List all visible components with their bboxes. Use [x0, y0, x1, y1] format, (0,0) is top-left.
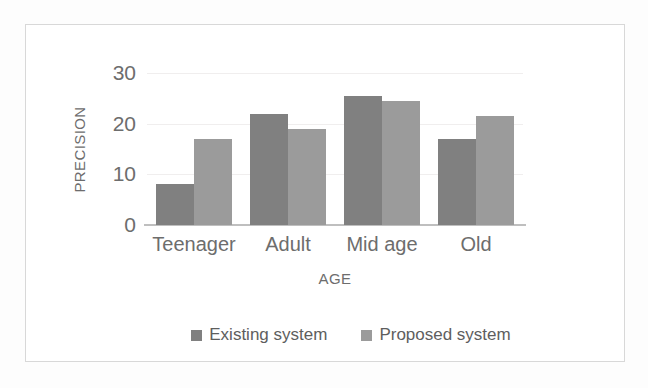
scanned-page: PRECISION 0102030 TeenagerAdultMid ageOl… — [0, 0, 648, 388]
bar-existing-system — [156, 184, 194, 225]
y-axis-tick-label: 0 — [124, 213, 136, 237]
x-axis-label: Teenager — [147, 233, 241, 256]
bar-existing-system — [438, 139, 476, 225]
legend-swatch-icon — [361, 330, 372, 341]
x-axis-category-labels: TeenagerAdultMid ageOld — [147, 233, 523, 263]
legend-label: Existing system — [209, 325, 327, 345]
legend-item[interactable]: Proposed system — [361, 325, 510, 345]
y-axis-tick-label: 20 — [113, 112, 136, 136]
y-axis-tick-label: 30 — [113, 61, 136, 85]
bar-proposed-system — [382, 101, 420, 225]
x-axis-label: Old — [429, 233, 523, 256]
y-axis-tick-label: 10 — [113, 162, 136, 186]
legend-label: Proposed system — [379, 325, 510, 345]
chart-legend: Existing systemProposed system — [51, 325, 648, 345]
bar-proposed-system — [194, 139, 232, 225]
chart-frame: PRECISION 0102030 TeenagerAdultMid ageOl… — [25, 24, 625, 362]
bar-proposed-system — [288, 129, 326, 225]
bar-group — [147, 73, 241, 225]
legend-item[interactable]: Existing system — [191, 325, 327, 345]
x-axis-label: Adult — [241, 233, 335, 256]
y-axis-title-label: PRECISION — [71, 106, 88, 192]
x-axis-title: AGE — [147, 270, 523, 287]
y-axis-title: PRECISION — [68, 73, 90, 225]
bar-proposed-system — [476, 116, 514, 225]
bar-existing-system — [344, 96, 382, 225]
legend-swatch-icon — [191, 330, 202, 341]
bar-group — [429, 73, 523, 225]
bar-group — [335, 73, 429, 225]
bar-group — [241, 73, 335, 225]
plot-area: 0102030 — [147, 73, 523, 225]
bar-existing-system — [250, 114, 288, 225]
x-axis-label: Mid age — [335, 233, 429, 256]
